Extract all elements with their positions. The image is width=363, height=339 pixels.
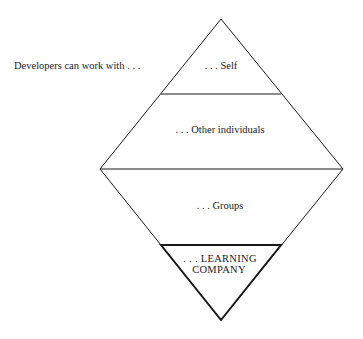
level-groups-label: . . . Groups xyxy=(197,201,244,212)
level-individuals-label: . . . Other individuals xyxy=(176,125,265,136)
level-self-label: . . . Self xyxy=(205,61,238,72)
intro-label: Developers can work with . . . xyxy=(14,61,140,72)
level-learning-company-line1: . . . LEARNING xyxy=(183,253,257,264)
diamond-diagram xyxy=(0,0,363,339)
level-learning-company-line2: COMPANY xyxy=(192,264,246,275)
